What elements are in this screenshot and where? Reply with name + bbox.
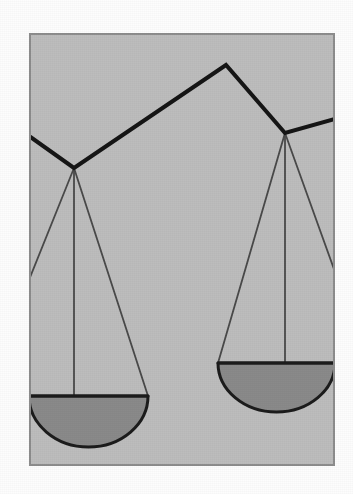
balance-scale-illustration: Balance Scale Two-pan balance scale tilt… — [0, 0, 353, 494]
figure-canvas: Balance Scale Two-pan balance scale tilt… — [0, 0, 353, 494]
